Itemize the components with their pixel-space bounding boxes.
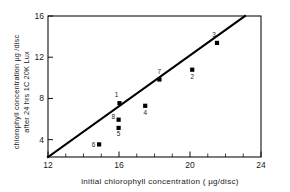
data-point-marker: [215, 41, 219, 45]
data-point-label: 1: [115, 91, 119, 98]
data-point-label: 7: [158, 68, 162, 75]
x-tick-label: 12: [43, 160, 53, 170]
data-point-marker: [117, 118, 121, 122]
data-point-label: 8: [112, 113, 116, 120]
data-point-marker: [157, 77, 161, 81]
data-point-label: 5: [117, 130, 121, 137]
data-point-label: 6: [92, 141, 96, 148]
data-point-marker: [143, 104, 147, 108]
x-tick-label: 24: [256, 160, 266, 170]
y-tick-label: 16: [35, 11, 45, 21]
x-tick-label: 16: [114, 160, 124, 170]
x-axis-title: initial chlorophyll concentration ( µg/d…: [81, 177, 238, 186]
y-tick-label: 12: [35, 52, 45, 62]
data-point-label: 3: [212, 31, 216, 38]
y-axis-title-line2: after 24 hrs 1C 20K Lux: [22, 51, 31, 133]
data-point-marker: [190, 68, 194, 72]
y-tick-label: 8: [39, 93, 44, 103]
data-point-marker: [97, 142, 101, 146]
data-point-label: 2: [190, 73, 194, 80]
chart-figure: 16 12 8 4 12 16 20: [0, 0, 290, 192]
y-axis-title-line1: chlorophyll concentration µg /disc: [12, 35, 21, 150]
y-tick-label: 4: [39, 135, 44, 145]
data-point-marker: [117, 101, 121, 105]
data-point-label: 4: [143, 109, 147, 116]
x-tick-label: 20: [185, 160, 195, 170]
scatter-plot: 16 12 8 4 12 16 20: [0, 0, 290, 192]
